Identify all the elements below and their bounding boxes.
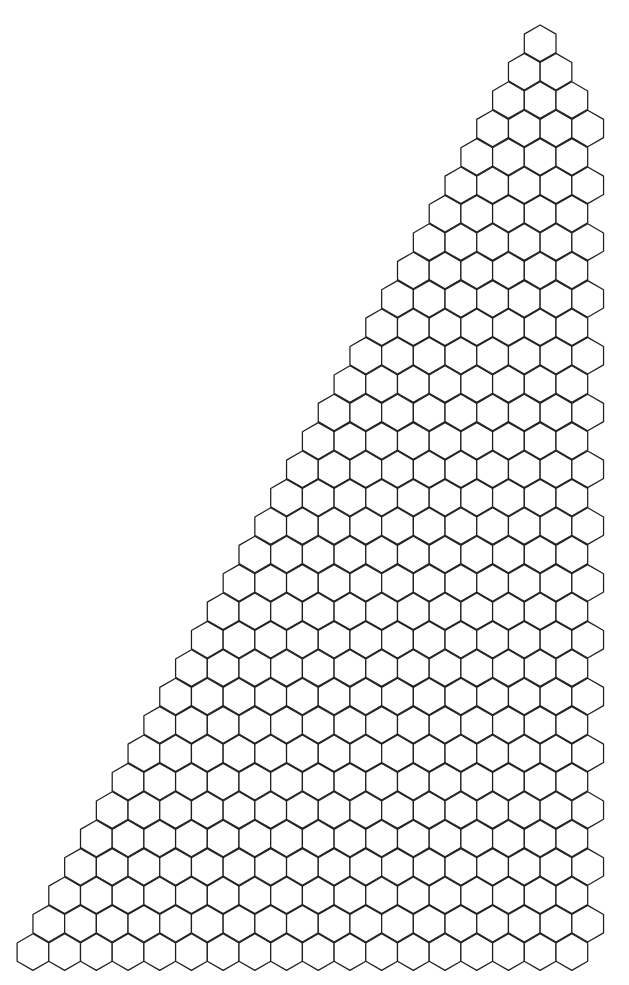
hex-grid — [17, 25, 603, 970]
hex-grid-canvas — [0, 0, 629, 985]
